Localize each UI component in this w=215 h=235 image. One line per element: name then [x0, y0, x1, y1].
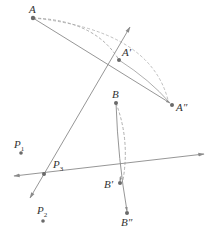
label-a2: A″ — [175, 101, 188, 113]
point-p3 — [42, 172, 46, 176]
arc-a1-a2 — [119, 60, 170, 103]
label-p2-sub: 2 — [44, 211, 48, 219]
point-a — [31, 16, 35, 20]
label-p3-sub: 3 — [60, 165, 64, 173]
arc-a-a2-dashed — [33, 18, 119, 60]
point-b2 — [125, 211, 129, 215]
label-b1: B′ — [104, 178, 114, 190]
label-p1-sub: 1 — [21, 145, 25, 153]
point-p2 — [41, 219, 45, 223]
label-a1: A′ — [121, 46, 132, 58]
label-b: B — [112, 88, 119, 100]
label-p2: P2 — [36, 204, 48, 219]
arc-b1-small — [120, 176, 121, 181]
label-a: A — [28, 3, 36, 15]
label-b2: B″ — [121, 216, 133, 228]
point-a1 — [117, 58, 121, 62]
point-a2 — [170, 103, 174, 107]
point-b — [114, 101, 118, 105]
label-p1: P1 — [13, 138, 25, 153]
point-b1 — [118, 181, 122, 185]
rotation-diagram: A A′ A″ B B′ B″ P1 P2 P3 — [0, 0, 215, 235]
segment-a-a2 — [33, 18, 170, 103]
